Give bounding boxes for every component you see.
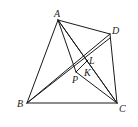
segment-AP [58, 20, 76, 72]
geometry-diagram: A D B C P K L [0, 0, 138, 127]
point-label-C: C [119, 104, 126, 114]
point-label-L: L [89, 56, 95, 66]
point-label-A: A [54, 9, 60, 19]
segment-AD [58, 20, 110, 34]
point-label-D: D [112, 26, 119, 36]
point-label-K: K [84, 68, 91, 78]
point-label-B: B [17, 99, 23, 109]
point-label-P: P [72, 75, 78, 85]
segment-DC [110, 34, 117, 103]
segment-AK [58, 20, 117, 103]
segment-PC [76, 72, 117, 103]
